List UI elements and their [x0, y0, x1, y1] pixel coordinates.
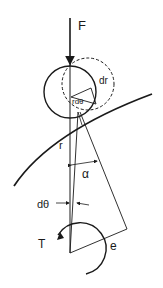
dr-label: dr: [99, 75, 109, 86]
dtheta-label: dθ: [37, 198, 49, 210]
cam-follower-diagram: F dr rdθ r α dθ T e: [0, 0, 163, 288]
rdtheta-to-contact-line: [78, 112, 82, 125]
torque-label: T: [38, 237, 46, 251]
alpha-label: α: [82, 167, 89, 181]
dtheta-arrow-right: [77, 203, 89, 205]
torque-arrowhead-icon: [57, 232, 64, 240]
rdtheta-label: rdθ: [72, 97, 84, 106]
eccentricity-line: [70, 229, 127, 253]
eccentricity-label: e: [110, 239, 117, 253]
force-label: F: [78, 18, 86, 33]
radius-label: r: [59, 139, 63, 151]
